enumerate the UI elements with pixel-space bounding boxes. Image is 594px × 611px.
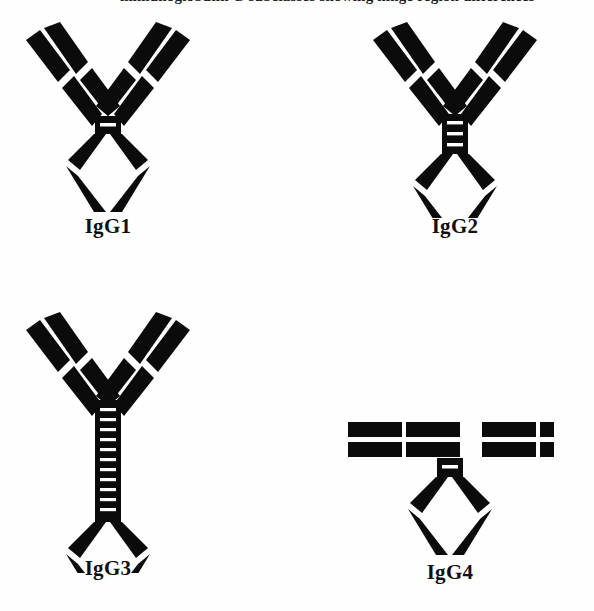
igg3-hinge-disulfide-line-6	[100, 458, 116, 461]
igg3-hinge-disulfide-line-5	[100, 448, 116, 451]
igg3-hinge-disulfide-line-9	[100, 488, 116, 491]
igg4-right-light-CL	[540, 422, 554, 437]
igg4-right-heavy-CH1	[540, 442, 554, 457]
igg3-hinge-disulfide-line-1	[100, 408, 116, 411]
igg4-left-heavy-VH	[348, 442, 402, 457]
igg3-hinge-disulfide-line-8	[100, 478, 116, 481]
igg2-hinge-disulfide-line-3	[447, 143, 463, 146]
igg4-left-light-CL	[406, 422, 460, 437]
igg4-fc-right-CH2	[452, 477, 490, 513]
panel-igg2: IgG2	[355, 18, 555, 268]
igg3-hinge-disulfide-line-3	[100, 428, 116, 431]
panel-igg3: IgG3	[8, 308, 208, 598]
igg4-fc-left-CH3	[408, 509, 448, 555]
figure-caption-text: immunoglobulin G subclasses showing hing…	[120, 0, 535, 5]
igg3-fc-right-CH2	[110, 522, 148, 558]
panel-igg4: IgG4	[330, 400, 570, 600]
igg2-fc-right-CH2	[457, 154, 495, 190]
igg1-fc-right-CH2	[110, 134, 148, 170]
igg3-hinge-disulfide-line-10	[100, 498, 116, 501]
igg4-left-light-VL	[348, 422, 402, 437]
igg1-fc-left-CH2	[68, 134, 106, 170]
igg1-label: IgG1	[8, 214, 208, 239]
igg3-hinge-disulfide-line-2	[100, 418, 116, 421]
figure-caption-strip: immunoglobulin G subclasses showing hing…	[0, 0, 594, 9]
igg2-hinge-disulfide-line-2	[447, 132, 463, 135]
igg3-hinge-disulfide-line-11	[100, 508, 116, 511]
igg3-label: IgG3	[8, 556, 208, 581]
igg1-diagram	[8, 18, 208, 218]
igg4-diagram	[330, 400, 570, 565]
igg1-hinge-disulfide-line-1	[100, 123, 116, 127]
igg3-hinge-disulfide-line-4	[100, 438, 116, 441]
igg4-right-heavy-VH	[482, 442, 536, 457]
igg4-fc-left-CH2	[410, 477, 448, 513]
igg2-label: IgG2	[355, 214, 555, 239]
igg1-fc-right-CH3	[110, 166, 150, 212]
igg3-diagram	[8, 308, 208, 573]
igg4-label: IgG4	[330, 560, 570, 585]
igg3-hinge-disulfide-line-7	[100, 468, 116, 471]
igg4-right-light-VL	[482, 422, 536, 437]
igg2-hinge-disulfide-line-1	[447, 121, 463, 124]
igg4-fc-right-CH3	[452, 509, 492, 555]
igg2-diagram	[355, 18, 555, 218]
igg2-fc-left-CH2	[415, 154, 453, 190]
igg4-left-heavy-CH1	[406, 442, 460, 457]
igg4-hinge-disulfide-line-1	[442, 465, 458, 469]
igg1-fc-left-CH3	[66, 166, 106, 212]
panel-igg1: IgG1	[8, 18, 208, 268]
igg3-fc-left-CH2	[68, 522, 106, 558]
